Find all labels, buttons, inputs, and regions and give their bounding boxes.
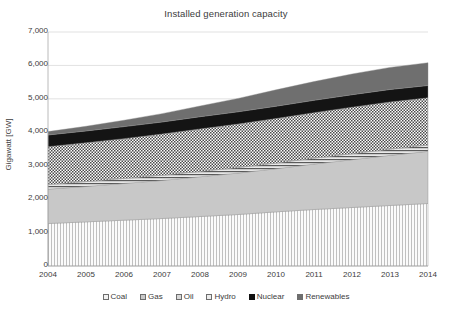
legend-swatch-nuclear-icon [249,294,255,300]
chart-title: Installed generation capacity [0,8,452,19]
y-axis-tick-label: 5,000 [8,94,48,102]
legend-item-gas[interactable]: Gas [140,292,163,301]
x-axis-tick-label: 2010 [256,270,296,279]
legend-item-coal[interactable]: Coal [103,292,127,301]
legend-label: Oil [184,292,194,301]
y-axis-tick-label: 7,000 [8,27,48,35]
chart-legend: CoalGasOilHydroNuclearRenewables [0,292,452,301]
legend-swatch-hydro-icon [206,294,212,300]
chart-container: Installed generation capacity Gigawatt [… [0,0,452,316]
x-axis-tick-label: 2005 [66,270,106,279]
legend-label: Renewables [305,292,349,301]
stacked-areas [48,63,428,266]
legend-label: Nuclear [257,292,285,301]
y-axis-tick-label: 3,000 [8,161,48,169]
y-axis-tick-labels: 01,0002,0003,0004,0005,0006,0007,000 [0,0,48,316]
x-axis-tick-label: 2007 [142,270,182,279]
legend-item-hydro[interactable]: Hydro [206,292,235,301]
x-axis-tick-label: 2004 [28,270,68,279]
x-axis-tick-label: 2006 [104,270,144,279]
legend-swatch-gas-icon [140,294,146,300]
x-axis-tick-label: 2011 [294,270,334,279]
legend-swatch-coal-icon [103,294,109,300]
legend-label: Hydro [214,292,235,301]
plot-area [0,0,452,316]
x-axis-tick-label: 2013 [370,270,410,279]
y-axis-tick-label: 1,000 [8,228,48,236]
legend-label: Gas [148,292,163,301]
y-axis-tick-label: 6,000 [8,60,48,68]
legend-swatch-renewables-icon [297,294,303,300]
x-axis-tick-label: 2012 [332,270,372,279]
y-axis-tick-label: 4,000 [8,127,48,135]
legend-item-oil[interactable]: Oil [176,292,194,301]
legend-item-nuclear[interactable]: Nuclear [249,292,285,301]
legend-swatch-oil-icon [176,294,182,300]
y-axis-tick-label: 2,000 [8,194,48,202]
x-axis-tick-label: 2008 [180,270,220,279]
x-axis-tick-label: 2014 [408,270,448,279]
x-axis-tick-label: 2009 [218,270,258,279]
legend-item-renewables[interactable]: Renewables [297,292,349,301]
y-axis-tick-label: 0 [8,261,48,269]
legend-label: Coal [111,292,127,301]
